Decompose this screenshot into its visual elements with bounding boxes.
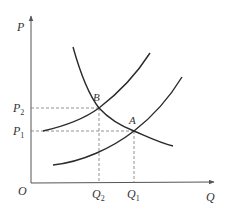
q1-label: Q1 [127, 187, 140, 203]
y-axis-label: P [16, 20, 25, 34]
x-axis-label: Q [206, 190, 215, 204]
p1-label: P1 [12, 124, 24, 140]
origin-label: O [18, 184, 27, 198]
p2-label: P2 [12, 101, 24, 117]
supply-demand-diagram: P Q O P2 P1 Q2 Q1 B A [0, 0, 235, 211]
x-axis [31, 182, 214, 183]
q2-label: Q2 [92, 187, 105, 203]
point-a-label: A [128, 114, 136, 126]
supply-curve-2 [53, 77, 182, 165]
point-b-label: B [93, 91, 100, 103]
